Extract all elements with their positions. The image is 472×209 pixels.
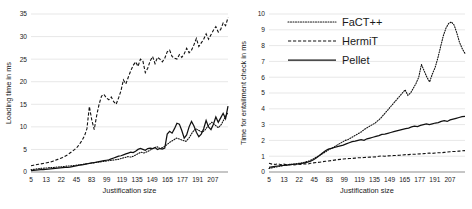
x-tick-label: 22 xyxy=(295,176,303,183)
series-line-pellet xyxy=(31,106,228,171)
legend-label-pellet: Pellet xyxy=(342,54,370,66)
y-tick-label: 9 xyxy=(261,26,265,33)
x-tick-label: 165 xyxy=(399,176,410,183)
x-tick-label: 207 xyxy=(207,176,218,183)
x-tick-label: 191 xyxy=(192,176,203,183)
y-tick-label: 8 xyxy=(261,42,265,49)
x-tick-label: 5 xyxy=(267,176,271,183)
x-tick-label: 177 xyxy=(414,176,425,183)
x-tick-label: 13 xyxy=(42,176,50,183)
y-tick-label: 10 xyxy=(20,123,28,130)
legend-label-factpp: FaCT++ xyxy=(342,16,382,28)
x-tick-label: 119 xyxy=(354,176,365,183)
y-tick-label: 7 xyxy=(261,58,265,65)
y-tick-label: 1 xyxy=(261,153,265,160)
y-tick-label: 5 xyxy=(23,146,27,153)
y-tick-label: 35 xyxy=(20,10,28,17)
y-tick-label: 2 xyxy=(261,137,265,144)
loading-time-chart-svg: 0510152025303551322458399119135149165177… xyxy=(0,0,236,209)
x-tick-label: 45 xyxy=(311,176,319,183)
chart-panel-entailment-time: 0123456789105132245839911913514916517719… xyxy=(236,0,472,209)
series-line-factpp xyxy=(31,112,228,169)
x-tick-label: 99 xyxy=(341,176,349,183)
x-tick-label: 177 xyxy=(177,176,188,183)
y-tick-label: 10 xyxy=(258,10,266,17)
x-tick-label: 135 xyxy=(132,176,143,183)
x-tick-label: 5 xyxy=(29,176,33,183)
chart-panel-loading-time: 0510152025303551322458399119135149165177… xyxy=(0,0,236,209)
y-tick-label: 6 xyxy=(261,74,265,81)
series-line-hermit xyxy=(31,18,228,166)
y-tick-label: 0 xyxy=(23,168,27,175)
entailment-time-chart-svg: 0123456789105132245839911913514916517719… xyxy=(236,0,472,209)
y-axis-title: Loading time in ms xyxy=(4,62,13,124)
y-tick-label: 15 xyxy=(20,101,28,108)
x-tick-label: 13 xyxy=(280,176,288,183)
y-axis-title: Time for entailment check in ms xyxy=(239,41,248,145)
x-axis-title: Justification size xyxy=(340,186,394,195)
y-tick-label: 0 xyxy=(261,168,265,175)
x-tick-label: 191 xyxy=(429,176,440,183)
x-axis-title: Justification size xyxy=(103,186,157,195)
x-tick-label: 83 xyxy=(88,176,96,183)
y-tick-label: 25 xyxy=(20,56,28,63)
x-tick-label: 165 xyxy=(162,176,173,183)
y-tick-label: 20 xyxy=(20,78,28,85)
x-tick-label: 149 xyxy=(147,176,158,183)
figure-two-line-charts: 0510152025303551322458399119135149165177… xyxy=(0,0,472,209)
y-tick-label: 30 xyxy=(20,33,28,40)
y-tick-label: 4 xyxy=(261,105,265,112)
legend-label-hermit: HermiT xyxy=(342,35,378,47)
x-tick-label: 83 xyxy=(326,176,334,183)
x-tick-label: 135 xyxy=(369,176,380,183)
x-tick-label: 99 xyxy=(103,176,111,183)
x-tick-label: 22 xyxy=(58,176,66,183)
y-tick-label: 3 xyxy=(261,121,265,128)
x-tick-label: 45 xyxy=(73,176,81,183)
x-tick-label: 119 xyxy=(117,176,128,183)
x-tick-label: 207 xyxy=(444,176,455,183)
y-tick-label: 5 xyxy=(261,89,265,96)
x-tick-label: 149 xyxy=(384,176,395,183)
series-line-pellet xyxy=(269,116,465,167)
